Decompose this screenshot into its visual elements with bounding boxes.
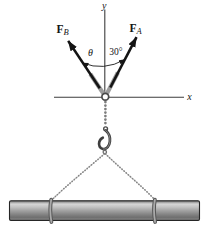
ring	[102, 93, 109, 100]
statics-diagram: y x FB FA θ 30°	[0, 0, 206, 232]
hook	[99, 127, 110, 149]
force-a-arrow	[110, 37, 136, 87]
figure: y x FB FA θ 30°	[0, 0, 206, 232]
force-b-subscript: B	[64, 27, 69, 37]
angle-arc	[82, 60, 125, 67]
sling-chain-left	[53, 154, 105, 199]
theta-angle-label: θ	[88, 47, 93, 58]
force-b-symbol: F	[57, 23, 64, 35]
force-a-label: FA	[130, 22, 143, 36]
force-a-symbol: F	[130, 22, 137, 34]
force-a-subscript: A	[136, 26, 143, 36]
force-b-label: FB	[57, 23, 69, 37]
sling-link	[103, 150, 106, 153]
force-b-arrow	[68, 41, 100, 88]
beam	[10, 201, 200, 221]
x-axis-label: x	[186, 91, 192, 102]
sling-wrap-left	[50, 200, 51, 222]
sling-wrap-right	[154, 200, 155, 222]
thirty-degree-angle-label: 30°	[109, 47, 123, 57]
y-axis-label: y	[101, 0, 107, 11]
